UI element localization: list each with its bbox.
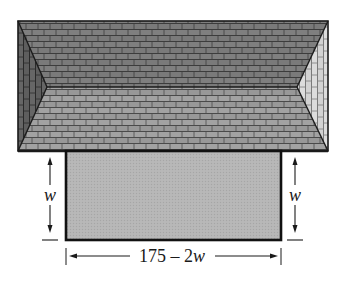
roof-dimension-diagram: w w 175 – 2w [0, 0, 346, 281]
roof-lower-plane [18, 87, 328, 151]
bottom-length-label: 175 – 2w [139, 246, 205, 266]
roof-upper-plane [18, 21, 328, 87]
bottom-length-variable: w [193, 246, 205, 266]
left-width-label: w [44, 185, 56, 205]
roof [18, 21, 328, 151]
right-width-label: w [289, 185, 301, 205]
bottom-length-prefix: 175 – 2 [139, 246, 193, 266]
enclosed-rectangle [66, 151, 281, 240]
